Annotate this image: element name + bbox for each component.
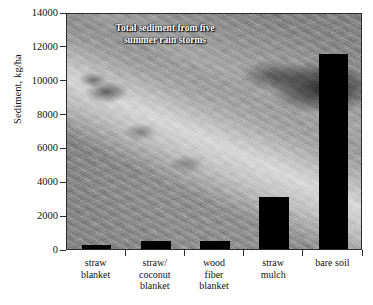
x-axis-tick [125, 250, 126, 256]
x-axis-category-line: coconut [124, 269, 186, 281]
bar [319, 54, 349, 249]
x-axis-category-line: blanket [124, 280, 186, 292]
y-axis-tick-label: 6000 [0, 142, 58, 153]
y-axis-tick-label: 2000 [0, 210, 58, 221]
y-axis-tick-label: 4000 [0, 176, 58, 187]
bar [82, 245, 112, 249]
plot-area: Total sediment from five summer rain sto… [66, 13, 362, 250]
x-axis-category-label: bare soil [301, 257, 363, 269]
x-axis-category-line: fiber [183, 269, 245, 281]
bar [200, 241, 230, 249]
y-axis-tick-label: 8000 [0, 109, 58, 120]
bar [259, 197, 289, 249]
x-axis-tick [184, 250, 185, 256]
x-axis-category-line: wood [183, 257, 245, 269]
x-axis-category-label: straw/coconutblanket [124, 257, 186, 292]
x-axis-category-line: mulch [242, 269, 304, 281]
x-axis-tick [243, 250, 244, 256]
y-axis-tick-label: 0 [0, 244, 58, 255]
x-axis-category-label: strawblanket [65, 257, 127, 280]
background-photograph [67, 14, 361, 249]
x-axis-category-label: strawmulch [242, 257, 304, 280]
x-axis-category-line: blanket [183, 280, 245, 292]
x-axis-category-line: straw/ [124, 257, 186, 269]
x-axis-category-line: blanket [65, 269, 127, 281]
x-axis-category-line: straw [65, 257, 127, 269]
x-axis-category-line: straw [242, 257, 304, 269]
y-axis-tick-label: 12000 [0, 41, 58, 52]
x-axis-category-label: woodfiberblanket [183, 257, 245, 292]
x-axis-tick [302, 250, 303, 256]
y-axis-tick-label: 14000 [0, 7, 58, 18]
x-axis-category-line: bare soil [301, 257, 363, 269]
bar [141, 241, 171, 249]
x-axis-tick [362, 250, 363, 256]
y-axis-tick-label: 10000 [0, 75, 58, 86]
chart-figure: Sediment, kg/ha 020004000600080001000012… [0, 0, 373, 305]
